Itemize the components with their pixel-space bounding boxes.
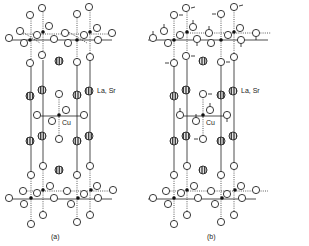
crystal-structure-figure: La, Sr Cu (a) — [0, 0, 309, 246]
cu-label-b: Cu — [206, 119, 215, 126]
panel-a: La, Sr Cu (a) — [5, 3, 116, 241]
caption-a: (a) — [51, 233, 60, 241]
bottom-cuo2-plane — [10, 166, 115, 222]
la-sr-label-b: La, Sr — [241, 87, 260, 94]
cu-label-a: Cu — [62, 119, 71, 126]
panel-b: La, Sr Cu (b) — [148, 3, 271, 241]
oxygen-atoms — [5, 3, 116, 227]
central-cuo6-octahedron — [38, 95, 83, 139]
caption-b: (b) — [207, 233, 216, 241]
la-sr-label-a: La, Sr — [97, 87, 116, 94]
column-lines — [31, 60, 90, 176]
